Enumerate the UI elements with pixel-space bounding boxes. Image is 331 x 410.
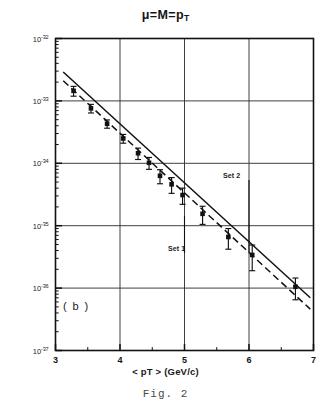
y-tick-exponent: -34 <box>41 158 49 164</box>
chart-canvas <box>0 0 331 410</box>
data-point-marker <box>71 89 76 94</box>
data-point-marker <box>200 212 205 217</box>
figure-caption: Fig. 2 <box>0 388 331 400</box>
data-point-marker <box>158 174 163 179</box>
data-point-marker <box>89 106 94 111</box>
y-tick-mantissa: 10 <box>33 222 41 231</box>
y-axis-tick-label: 10-35 <box>2 221 49 231</box>
y-axis-tick-label: 10-34 <box>2 158 49 168</box>
y-tick-exponent: -32 <box>41 34 49 40</box>
data-point-marker <box>293 284 298 289</box>
figure-panel-b: μ=M=pT ( b ) < pT > (GeV/c) Fig. 2 10-32… <box>0 0 331 410</box>
y-tick-mantissa: 10 <box>33 284 41 293</box>
y-axis-tick-label: 10-32 <box>2 34 49 44</box>
data-point-marker <box>136 151 141 156</box>
y-tick-exponent: -35 <box>41 221 49 227</box>
fit-line-solid <box>63 72 310 298</box>
x-axis-tick-label: 5 <box>175 355 195 365</box>
fit-line-dashed <box>63 81 310 309</box>
x-axis-tick-label: 4 <box>110 355 130 365</box>
y-axis-tick-label: 10-37 <box>2 346 49 356</box>
y-axis-tick-label: 10-36 <box>2 283 49 293</box>
data-point-marker <box>226 235 231 240</box>
y-tick-exponent: -37 <box>41 346 49 352</box>
panel-label: ( b ) <box>63 300 90 312</box>
x-axis-tick-label: 3 <box>46 355 66 365</box>
y-tick-mantissa: 10 <box>33 159 41 168</box>
data-point-marker <box>147 160 152 165</box>
y-tick-exponent: -36 <box>41 283 49 289</box>
data-point-marker <box>121 136 126 141</box>
y-tick-mantissa: 10 <box>33 35 41 44</box>
data-point-marker <box>169 182 174 187</box>
data-point-marker <box>105 121 110 126</box>
x-axis-tick-label: 6 <box>239 355 259 365</box>
x-axis-tick-label: 7 <box>304 355 324 365</box>
annotation-label-set-1: Set 1 <box>168 245 185 252</box>
data-point-marker <box>250 253 255 258</box>
x-axis-label: < pT > (GeV/c) <box>0 366 331 377</box>
y-axis-tick-label: 10-33 <box>2 96 49 106</box>
y-tick-exponent: -33 <box>41 96 49 102</box>
data-point-marker <box>180 193 185 198</box>
annotation-label-set-2: Set 2 <box>223 172 240 179</box>
y-tick-mantissa: 10 <box>33 97 41 106</box>
y-tick-mantissa: 10 <box>33 347 41 356</box>
